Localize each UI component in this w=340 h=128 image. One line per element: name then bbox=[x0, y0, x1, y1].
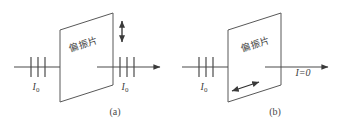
figure-canvas: I0 I0 偏振片 (a) bbox=[0, 0, 340, 128]
outgoing-intensity-label-a: I0 bbox=[121, 81, 129, 94]
incident-intensity-label-b: I0 bbox=[200, 81, 208, 94]
outgoing-intensity-label-b: I=0 bbox=[294, 67, 310, 78]
incident-intensity-label-a: I0 bbox=[32, 81, 40, 94]
optics-polarizer-figure: I0 I0 偏振片 (a) bbox=[0, 0, 340, 128]
polarizer-plate-b bbox=[228, 13, 281, 102]
caption-b: (b) bbox=[269, 106, 281, 118]
caption-a: (a) bbox=[109, 106, 120, 118]
polarizer-plate-a bbox=[60, 13, 113, 102]
panel-a: I0 I0 偏振片 (a) bbox=[14, 13, 160, 118]
panel-b: I0 I=0 偏振片 (b) bbox=[182, 13, 328, 118]
